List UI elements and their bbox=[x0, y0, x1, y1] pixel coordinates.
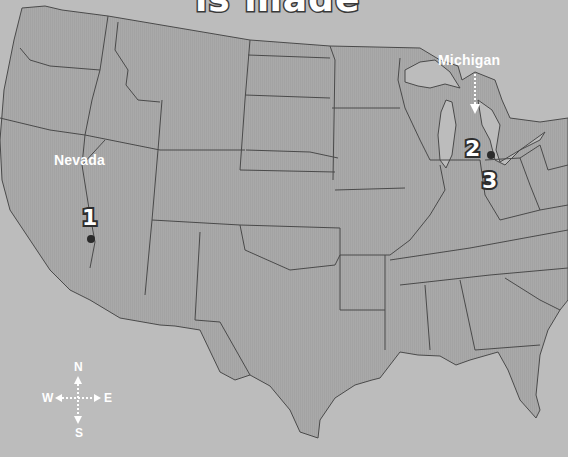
north-arrowhead bbox=[74, 376, 82, 384]
marker-1-number: 1 bbox=[82, 207, 97, 229]
south-arrowhead bbox=[74, 416, 82, 424]
compass-north: N bbox=[74, 360, 83, 374]
label-nevada: Nevada bbox=[54, 152, 105, 168]
compass-south: S bbox=[75, 426, 83, 440]
us-map: is made Nevada Michigan 1 2 3 N S W E bbox=[0, 0, 568, 457]
compass-west: W bbox=[42, 391, 53, 405]
marker-2-dot bbox=[487, 151, 495, 159]
marker-3-number: 3 bbox=[482, 170, 497, 192]
compass-east: E bbox=[104, 391, 112, 405]
marker-2-number: 2 bbox=[465, 138, 480, 160]
east-arrowhead bbox=[94, 394, 101, 402]
marker-1-dot bbox=[87, 235, 95, 243]
compass-arrows bbox=[55, 376, 101, 424]
label-michigan: Michigan bbox=[438, 52, 500, 68]
title-fragment: is made bbox=[195, 0, 360, 19]
west-arrowhead bbox=[55, 394, 62, 402]
